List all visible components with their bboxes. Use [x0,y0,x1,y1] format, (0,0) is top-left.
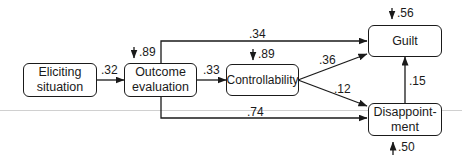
error-disappointment: .50 [398,141,415,153]
coef-disappointment-guilt: .15 [409,75,426,87]
node-label: Controllability [226,73,298,88]
node-label: ment [373,120,436,135]
error-controllability: .89 [258,48,275,60]
node-label: Eliciting [37,65,84,80]
node-eliciting-situation: Elicitingsituation [23,63,97,97]
node-label: Outcome [132,65,189,80]
coef-outcome-controllability: .33 [203,64,220,76]
node-guilt: Guilt [368,25,442,57]
error-guilt: .56 [397,7,414,19]
coef-controllability-guilt: .36 [319,54,336,66]
node-controllability: Controllability [226,64,299,96]
error-outcome: .89 [139,46,156,58]
coef-outcome-disappointment: .74 [247,106,264,118]
node-disappointment: Disappoint-ment [368,103,442,136]
coef-controllability-disappointment: .12 [334,83,351,95]
node-outcome-evaluation: Outcomeevaluation [124,63,197,97]
path-diagram: Elicitingsituation Outcomeevaluation Con… [0,0,462,164]
coef-outcome-guilt: .34 [249,28,266,40]
node-label: Disappoint- [373,105,436,120]
coef-eliciting-outcome: .32 [101,64,118,76]
node-label: situation [37,80,84,95]
node-label: evaluation [132,80,189,95]
node-label: Guilt [392,34,418,49]
